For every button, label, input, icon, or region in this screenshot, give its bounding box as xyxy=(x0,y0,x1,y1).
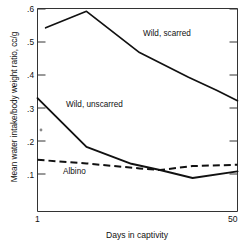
chart-figure: Mean water intake/body weight ratio, cc/… xyxy=(0,0,247,245)
series-line-wild-scarred xyxy=(46,11,238,100)
y-axis-ticks xyxy=(38,9,46,174)
plot-area xyxy=(0,0,247,245)
plot-border xyxy=(38,9,238,212)
axis-frame xyxy=(38,9,238,212)
plot-artifact-mark xyxy=(40,129,43,132)
y-axis-ticks-right xyxy=(230,9,238,174)
